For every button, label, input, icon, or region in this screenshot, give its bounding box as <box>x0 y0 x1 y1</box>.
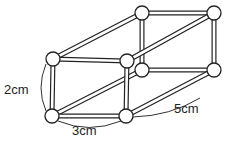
height-label: 2cm <box>4 83 29 96</box>
prism-skeleton <box>0 0 235 154</box>
depth-label: 5cm <box>174 102 199 115</box>
width-label: 3cm <box>72 124 97 137</box>
